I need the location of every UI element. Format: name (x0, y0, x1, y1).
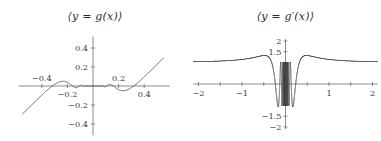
x-tick-label: 0.4 (138, 89, 151, 99)
x-tick-label: 2 (370, 88, 375, 98)
y-tick-label: −0.4 (68, 119, 88, 129)
y-tick-label: −2 (269, 122, 281, 132)
x-tick-label: 0.2 (112, 73, 125, 83)
y-tick-label: 1.5 (268, 47, 281, 57)
plot-panel-g-prime: ⟨y = g′(x)⟩ −2−112−2−1.51.52 (190, 0, 381, 141)
x-tick-label: −0.2 (57, 89, 77, 99)
y-tick-label: 2 (276, 36, 281, 46)
curve-g-prime-right (286, 55, 378, 106)
y-tick-label: −0.2 (68, 100, 88, 110)
plot-svg-g-prime: −2−112−2−1.51.52 (190, 26, 381, 141)
x-tick-label: −2 (192, 88, 204, 98)
curve-g-prime-left (193, 55, 285, 106)
y-tick-label: −1.5 (262, 111, 282, 121)
x-tick-label: −1 (236, 88, 248, 98)
y-tick-label: 0.2 (75, 62, 88, 72)
plot-title-g-prime: ⟨y = g′(x)⟩ (190, 10, 381, 23)
plot-title-g: ⟨y = g(x)⟩ (0, 10, 190, 23)
curve-group-g-prime (193, 55, 377, 106)
x-tick-label: 1 (326, 88, 331, 98)
figure-container: ⟨y = g(x)⟩ −0.4−0.20.20.4−0.4−0.20.20.4 … (0, 0, 381, 141)
plot-svg-g: −0.4−0.20.20.4−0.4−0.20.20.4 (0, 26, 190, 141)
x-tick-label: −0.4 (32, 73, 52, 83)
y-tick-label: 0.4 (75, 43, 88, 53)
plot-panel-g: ⟨y = g(x)⟩ −0.4−0.20.20.4−0.4−0.20.20.4 (0, 0, 190, 141)
